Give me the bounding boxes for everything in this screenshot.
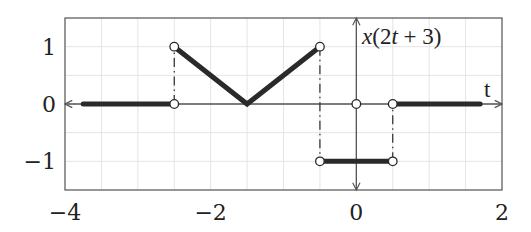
open-circle-marker <box>352 100 361 109</box>
tick-labels: −4−202−101 <box>24 35 509 225</box>
open-circle-marker <box>170 42 179 51</box>
function-label-part: + 3) <box>398 24 442 49</box>
x-tick-label: 0 <box>349 200 363 225</box>
open-circle-marker <box>316 157 325 166</box>
chart: −4−202−101 x(2t + 3) t <box>0 0 531 232</box>
y-tick-label: 0 <box>42 92 56 117</box>
x-tick-label: 2 <box>495 200 509 225</box>
open-circle-marker <box>388 157 397 166</box>
function-label-part: (2 <box>372 24 391 49</box>
x-axis-label: t <box>484 77 491 102</box>
x-tick-label: −4 <box>49 200 81 225</box>
function-label: x(2t + 3) <box>361 24 441 49</box>
open-circle-marker <box>388 100 397 109</box>
y-tick-label: −1 <box>24 149 56 174</box>
y-tick-label: 1 <box>42 35 56 60</box>
open-circle-marker <box>170 100 179 109</box>
x-tick-label: −2 <box>194 200 226 225</box>
function-label-part: x <box>361 24 373 49</box>
open-circle-marker <box>316 42 325 51</box>
